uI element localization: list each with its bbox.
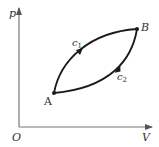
c1-label: c1 (72, 37, 82, 50)
point-a (52, 91, 56, 95)
point-a-label: A (43, 95, 53, 108)
pv-diagram: p V O A B c1 c2 (0, 0, 159, 147)
origin-label: O (12, 131, 21, 144)
y-axis-label: p (9, 7, 16, 20)
c2-label: c2 (117, 71, 127, 84)
x-axis-label: V (142, 131, 151, 144)
point-b (135, 27, 139, 31)
point-b-label: B (140, 21, 149, 34)
